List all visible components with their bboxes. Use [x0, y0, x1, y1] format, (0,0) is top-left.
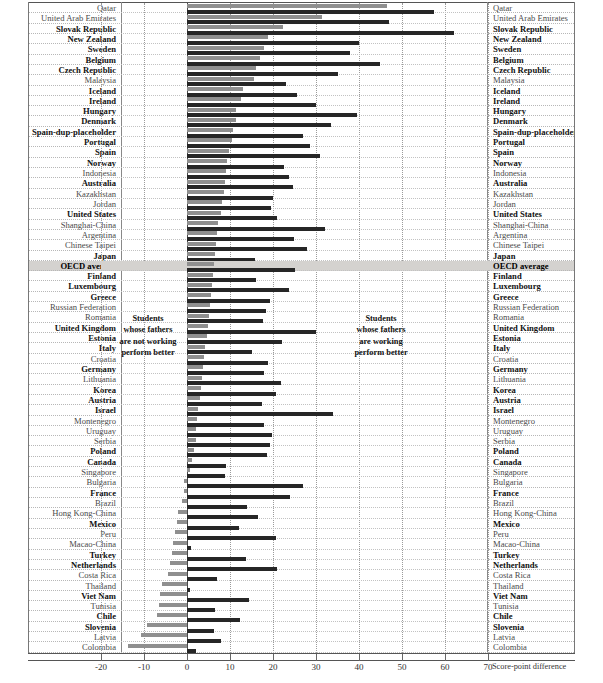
category-row-right: Japan: [488, 251, 574, 261]
bar-row: [101, 529, 488, 539]
bar-row: [101, 127, 488, 137]
bar-row: [101, 611, 488, 621]
bar-row: [101, 581, 488, 591]
bar-s1: [187, 221, 218, 225]
axis-tick-0: [187, 654, 188, 661]
category-row-right: United Arab Emirates: [488, 13, 574, 23]
category-label-right: New Zealand: [488, 34, 574, 44]
bar-s1: [187, 365, 203, 369]
bar-row: [101, 395, 488, 405]
category-label-right: Greece: [488, 292, 574, 302]
category-label-right: Canada: [488, 457, 574, 467]
axis-tick-30: [316, 654, 317, 661]
category-label-right: United Kingdom: [488, 323, 574, 333]
category-label-right: Brazil: [488, 498, 574, 508]
category-row-right: Argentina: [488, 230, 574, 240]
bar-row: [101, 405, 488, 415]
category-row-right: Israel: [488, 405, 574, 415]
bar-s1: [159, 603, 187, 607]
bar-row: [101, 560, 488, 570]
bar-s1: [187, 303, 210, 307]
category-row-right: Serbia: [488, 436, 574, 446]
bar-s1: [187, 231, 217, 235]
bar-s1: [173, 541, 187, 545]
bar-s1: [187, 159, 227, 163]
category-row-right: Montenegro: [488, 416, 574, 426]
bar-s1: [187, 417, 197, 421]
bar-s1: [178, 510, 187, 514]
bar-row: [101, 158, 488, 168]
category-label-right: Kazakhstan: [488, 189, 574, 199]
category-row-right: Brazil: [488, 498, 574, 508]
category-row-right: Hong Kong-China: [488, 508, 574, 518]
category-label-right: Israel: [488, 405, 574, 415]
category-row-right: Colombia: [488, 642, 574, 652]
category-row-right: Croatia: [488, 354, 574, 364]
category-label-right: Peru: [488, 529, 574, 539]
bar-row: [101, 199, 488, 209]
axis-tick-label-20: 20: [253, 662, 293, 672]
bar-s1: [187, 293, 211, 297]
bar-s1: [187, 15, 322, 19]
bar-row: [101, 374, 488, 384]
bar-row: [101, 65, 488, 75]
category-row-right: Canada: [488, 457, 574, 467]
bar-row: [101, 642, 488, 652]
category-label-right: United States: [488, 209, 574, 219]
bar-s1: [187, 407, 198, 411]
category-label-right: Luxembourg: [488, 281, 574, 291]
bar-s1: [187, 200, 222, 204]
bar-s1: [187, 334, 207, 338]
bar-s1: [187, 468, 190, 472]
category-row-right: Czech Republic: [488, 65, 574, 75]
bar-s1: [187, 149, 229, 153]
annotation-right: Students whose fathers are working perfo…: [340, 313, 422, 359]
category-row-right: New Zealand: [488, 34, 574, 44]
bar-s1: [187, 46, 264, 50]
category-label-right: Hungary: [488, 106, 574, 116]
category-row-right: Macao-China: [488, 539, 574, 549]
category-label-right: Macao-China: [488, 539, 574, 549]
bar-row: [101, 457, 488, 467]
category-row-right: United Kingdom: [488, 323, 574, 333]
category-row-right: Luxembourg: [488, 281, 574, 291]
bar-s1: [172, 551, 187, 555]
category-label-right: Denmark: [488, 116, 574, 126]
category-row-right: Portugal: [488, 137, 574, 147]
category-row-right: Peru: [488, 529, 574, 539]
category-label-right: Singapore: [488, 467, 574, 477]
bar-row: [101, 416, 488, 426]
category-label-right: Tunisia: [488, 601, 574, 611]
category-label-right: Belgium: [488, 55, 574, 65]
bar-s1: [187, 376, 202, 380]
category-row-right: Singapore: [488, 467, 574, 477]
category-label-right: Turkey: [488, 550, 574, 560]
bar-row: [101, 220, 488, 230]
bar-s1: [187, 108, 236, 112]
category-label-right: Serbia: [488, 436, 574, 446]
bar-row: [101, 436, 488, 446]
category-label-right: Japan: [488, 251, 574, 261]
category-label-right: Sweden: [488, 44, 574, 54]
axis-tick-label-60: 60: [425, 662, 465, 672]
category-row-right: Chinese Taipei: [488, 240, 574, 250]
bar-s1: [187, 324, 208, 328]
annotation-right-line4: perform better: [340, 347, 422, 358]
category-label-right: Austria: [488, 395, 574, 405]
bar-s1: [187, 396, 200, 400]
bar-s1: [187, 386, 201, 390]
category-row-right: Iceland: [488, 86, 574, 96]
category-row-right: Poland: [488, 446, 574, 456]
category-label-right: Korea: [488, 385, 574, 395]
category-label-right: Poland: [488, 446, 574, 456]
annotation-right-line2: whose fathers: [340, 324, 422, 335]
bar-row: [101, 498, 488, 508]
bar-s1: [187, 118, 236, 122]
category-label-right: Colombia: [488, 642, 574, 652]
bar-s1: [187, 262, 214, 266]
bar-s1: [187, 190, 224, 194]
category-row-right: Belgium: [488, 55, 574, 65]
category-label-right: Shanghai-China: [488, 220, 574, 230]
category-row-right: Costa Rica: [488, 570, 574, 580]
bar-s1: [187, 427, 196, 431]
